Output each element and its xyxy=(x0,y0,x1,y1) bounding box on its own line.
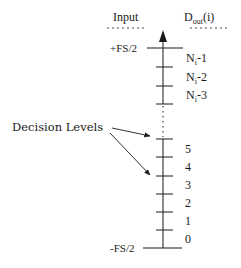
code-label-3: 3 xyxy=(185,178,191,192)
code-label-4: 4 xyxy=(185,160,191,174)
code-label-n-minus-1: Ni-1 xyxy=(186,51,207,67)
code-label-2: 2 xyxy=(185,196,191,210)
output-column-header: Dout(i) xyxy=(184,10,214,26)
decision-arrow-upper-icon xyxy=(112,128,150,136)
code-label-5: 5 xyxy=(185,142,191,156)
fs-minus-label: -FS/2 xyxy=(110,242,134,254)
input-column-header: Input xyxy=(113,10,139,24)
quantizer-diagram: Input Dout(i) +FS/2 Ni-1 Ni-2 Ni-3 -FS/2… xyxy=(0,0,241,268)
code-label-1: 1 xyxy=(185,214,191,228)
decision-arrow-lower-icon xyxy=(110,133,150,175)
axis-arrowhead-icon xyxy=(159,30,167,42)
code-label-n-minus-3: Ni-3 xyxy=(186,88,207,104)
decision-levels-label: Decision Levels xyxy=(12,120,103,134)
fs-plus-label: +FS/2 xyxy=(110,42,137,54)
code-label-n-minus-2: Ni-2 xyxy=(186,70,207,86)
code-label-0: 0 xyxy=(185,232,191,246)
